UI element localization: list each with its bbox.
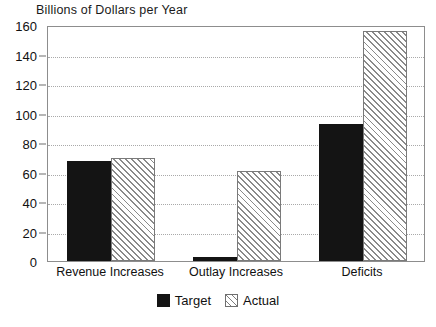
- y-tick-label: 160: [15, 19, 37, 34]
- x-category-label: Revenue Increases: [56, 265, 164, 279]
- hatched-swatch: [225, 294, 238, 307]
- y-axis: 020406080100120140160: [0, 26, 43, 262]
- y-tick-label: 0: [30, 255, 37, 270]
- y-tick-mark: [39, 55, 46, 56]
- y-tick-mark: [39, 144, 46, 145]
- plot-area: [47, 26, 425, 262]
- y-tick-label: 40: [23, 196, 37, 211]
- chart-legend: TargetActual: [0, 293, 436, 308]
- bar-chart: Billions of Dollars per Year 02040608010…: [0, 0, 436, 327]
- bar-target-revenue-increases: [67, 161, 111, 261]
- x-category-label: Outlay Increases: [189, 265, 283, 279]
- solid-black-swatch: [157, 294, 170, 307]
- y-tick-mark: [39, 85, 46, 86]
- y-tick-mark: [39, 232, 46, 233]
- y-tick-label: 20: [23, 225, 37, 240]
- y-tick-mark: [39, 203, 46, 204]
- x-category-label: Deficits: [342, 265, 383, 279]
- bar-target-deficits: [319, 124, 363, 261]
- y-tick-mark: [39, 173, 46, 174]
- bar-actual-deficits: [363, 31, 407, 261]
- y-tick-label: 100: [15, 107, 37, 122]
- legend-label: Actual: [243, 293, 279, 308]
- chart-title: Billions of Dollars per Year: [36, 3, 188, 17]
- legend-label: Target: [175, 293, 211, 308]
- y-tick-mark: [39, 114, 46, 115]
- bar-target-outlay-increases: [193, 257, 237, 261]
- y-tick-label: 80: [23, 137, 37, 152]
- y-tick-label: 140: [15, 48, 37, 63]
- bar-actual-outlay-increases: [237, 171, 281, 261]
- legend-item-actual: Actual: [225, 293, 279, 308]
- y-tick-label: 60: [23, 166, 37, 181]
- bar-actual-revenue-increases: [111, 158, 155, 261]
- y-tick-label: 120: [15, 78, 37, 93]
- legend-item-target: Target: [157, 293, 211, 308]
- x-axis: Revenue IncreasesOutlay IncreasesDeficit…: [47, 265, 425, 285]
